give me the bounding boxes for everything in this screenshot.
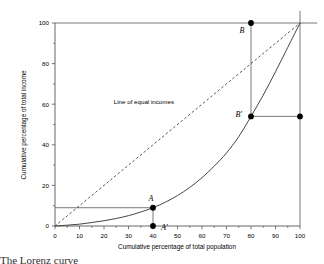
y-tick-label-60: 60 (42, 101, 49, 108)
point-right-54 (297, 113, 303, 119)
line-of-equal-incomes-label: Line of equal incomes (114, 98, 174, 105)
point-B-prime (248, 113, 254, 119)
x-tick-label-20: 20 (101, 232, 108, 239)
x-tick-label-40: 40 (150, 232, 157, 239)
y-axis-title: Cumulative percentage of total income (20, 70, 28, 180)
lorenz-curve-figure: 0102030405060708090100020406080100 Cumul… (0, 0, 324, 264)
y-tick-label-40: 40 (42, 141, 49, 148)
y-tick-label-20: 20 (42, 182, 49, 189)
x-tick-label-30: 30 (125, 232, 132, 239)
x-tick-label-80: 80 (248, 232, 255, 239)
y-tick-label-100: 100 (39, 19, 50, 26)
x-tick-label-50: 50 (174, 232, 181, 239)
x-tick-label-100: 100 (295, 232, 306, 239)
figure-caption: The Lorenz curve (0, 254, 324, 264)
x-tick-label-60: 60 (199, 232, 206, 239)
chart-canvas: 0102030405060708090100020406080100 Cumul… (0, 0, 324, 264)
x-tick-label-10: 10 (76, 232, 83, 239)
point-B-label: B (240, 26, 245, 35)
x-tick-label-0: 0 (53, 232, 57, 239)
x-axis-title: Cumulative percentage of total populatio… (118, 243, 236, 251)
x-tick-label-90: 90 (272, 232, 279, 239)
point-B (248, 20, 254, 26)
point-A-prime (150, 223, 156, 229)
x-tick-label-70: 70 (223, 232, 230, 239)
y-tick-label-0: 0 (46, 222, 50, 229)
point-A-label: A (148, 194, 154, 203)
point-B-prime-label: B' (235, 110, 242, 119)
y-tick-label-80: 80 (42, 60, 49, 67)
point-A-prime-label: A' (160, 223, 168, 232)
point-A (150, 205, 156, 211)
